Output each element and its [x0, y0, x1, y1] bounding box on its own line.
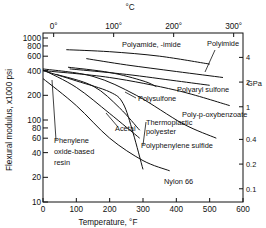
flexural-modulus-chart: 0100200300400500600102040608010020040060… [0, 0, 266, 228]
y-tick-label: 60 [32, 134, 42, 143]
top-tick-label: 300° [225, 22, 242, 31]
x-tick-label: 300 [136, 205, 150, 214]
curve-polyamide-imide [66, 50, 209, 64]
curve-label: oxide-based [54, 147, 94, 156]
y-tick-label: 400 [27, 67, 41, 76]
x-tick-label: 500 [203, 205, 217, 214]
x-tick-label: 600 [236, 205, 250, 214]
leader-line [125, 92, 136, 98]
y-axis-title: Flexural modulus, x1000 psi [5, 69, 14, 171]
top-tick-label: 100° [105, 22, 122, 31]
y-tick-label: 10 [32, 198, 42, 207]
top-tick-label: 0° [50, 22, 58, 31]
right-tick-label: 0.4 [246, 135, 256, 144]
x-tick-label: 0 [41, 205, 46, 214]
right-tick-label: 0.1 [246, 185, 256, 194]
curve-polyimide [86, 59, 223, 78]
leader-line [52, 80, 56, 140]
leader-line [205, 50, 215, 72]
curve-label: Polyaryl sulfone [177, 85, 229, 94]
y-tick-label: 1000 [23, 34, 42, 43]
curve-label: polyester [146, 127, 177, 136]
curve-label: Acetal [115, 124, 136, 133]
y-tick-label: 800 [27, 42, 41, 51]
y-tick-label: 600 [27, 52, 41, 61]
x-tick-label: 100 [69, 205, 83, 214]
curve-label: Polyphenylene sulfide [141, 141, 213, 150]
top-axis-unit: °C [125, 3, 134, 12]
curve-label: Phenylene [54, 136, 89, 145]
y-tick-label: 80 [32, 124, 42, 133]
y-tick-label: 40 [32, 149, 42, 158]
curve-label: Thermoplastic [146, 118, 193, 127]
x-axis-title: Temperature, °F [79, 218, 138, 227]
y-tick-label: 20 [32, 173, 42, 182]
x-tick-label: 200 [103, 205, 117, 214]
y-tick-label: 100 [27, 116, 41, 125]
top-tick-label: 200° [165, 22, 182, 31]
curve-label: Polysulfone [138, 94, 176, 103]
curve-label: Polyimide [207, 39, 239, 48]
right-tick-label: 4 [246, 53, 250, 62]
curve-label: resin [54, 158, 70, 167]
y-tick-label: 200 [27, 91, 41, 100]
curve-label: Nylon 66 [164, 177, 193, 186]
right-axis-unit: GPa [247, 79, 263, 88]
curve-label: Polyamide, -imide [122, 40, 181, 49]
x-tick-label: 400 [169, 205, 183, 214]
right-tick-label: 0.2 [246, 160, 256, 169]
